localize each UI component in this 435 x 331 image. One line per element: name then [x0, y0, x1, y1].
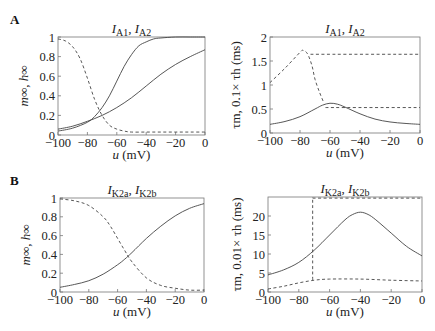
solid-series-line	[268, 212, 422, 275]
chart-title: IA1, IA2	[111, 21, 152, 38]
y-axis-label: m∞, h∞	[18, 225, 33, 266]
x-tick-label: −80	[79, 293, 99, 307]
x-tick-label: −80	[289, 293, 309, 307]
chart-a-right: −100−80−60−40−20000.511.52IA1, IA2u (mV)…	[228, 21, 423, 160]
x-tick-label: −20	[380, 134, 400, 148]
y-axis-label: τm, 0.1× τh (ms)	[228, 41, 243, 128]
dashed-series-line	[268, 279, 422, 289]
y-tick-label: 2	[261, 31, 267, 45]
y-tick-label: 0.2	[39, 109, 55, 123]
x-axis-label: u (mV)	[326, 304, 364, 319]
y-tick-label: 0.4	[41, 248, 57, 262]
dashed-series-line	[60, 199, 204, 290]
x-tick-label: 0	[202, 136, 208, 150]
x-axis-label: u (mV)	[326, 145, 364, 160]
y-tick-label: 0	[261, 127, 267, 141]
y-tick-label: 0.8	[39, 50, 55, 64]
chart-title: IK2a, IK2b	[106, 182, 156, 199]
x-axis-label: u (mV)	[113, 304, 151, 319]
y-tick-label: 0.6	[39, 70, 55, 84]
x-tick-label: 0	[419, 293, 425, 307]
y-axis-label: τm, 0.01× τh (ms)	[229, 198, 244, 292]
y-tick-label: 0	[259, 286, 265, 300]
y-tick-label: 20	[253, 210, 266, 224]
solid-series-line	[60, 204, 204, 288]
plot-frame	[268, 197, 422, 292]
x-tick-label: 0	[201, 293, 207, 307]
solid-series-line	[58, 50, 205, 129]
x-tick-label: −20	[381, 293, 401, 307]
solid-series-line	[58, 37, 205, 131]
y-tick-label: 0.5	[251, 103, 267, 117]
y-tick-label: 5	[259, 267, 265, 281]
y-tick-label: 0.2	[41, 267, 57, 281]
chart-title: IK2a, IK2b	[319, 181, 369, 198]
y-tick-label: 1	[49, 31, 55, 45]
x-tick-label: −20	[166, 136, 186, 150]
dashed-series-line	[58, 39, 205, 132]
chart-title: IA1, IA2	[324, 21, 365, 38]
x-tick-label: −80	[78, 136, 98, 150]
x-tick-label: 0	[417, 134, 423, 148]
plot-frame	[270, 37, 420, 133]
solid-series-line	[270, 103, 420, 124]
chart-b-right: −100−80−60−40−20005101520IK2a, IK2bu (mV…	[229, 181, 425, 319]
x-tick-label: −20	[165, 293, 185, 307]
y-tick-label: 0.6	[41, 229, 57, 243]
chart-b-left: −100−80−60−40−20000.20.40.60.81IK2a, IK2…	[18, 182, 207, 319]
y-tick-label: 1	[261, 79, 267, 93]
y-tick-label: 1.5	[251, 55, 267, 69]
y-tick-label: 0	[51, 286, 57, 300]
dashed-series-line	[270, 50, 324, 103]
plot-frame	[58, 37, 205, 135]
y-tick-label: 0.4	[39, 89, 55, 103]
chart-a-left: −100−80−60−40−20000.20.40.60.81IA1, IA2u…	[16, 21, 208, 162]
x-axis-label: u (mV)	[113, 147, 151, 162]
x-tick-label: −80	[290, 134, 310, 148]
figure-canvas: −100−80−60−40−20000.20.40.60.81IA1, IA2u…	[0, 0, 435, 331]
y-tick-label: 15	[253, 229, 266, 243]
y-tick-label: 0.8	[41, 210, 57, 224]
y-tick-label: 10	[253, 248, 266, 262]
y-tick-label: 0	[49, 129, 55, 143]
y-tick-label: 1	[51, 192, 57, 206]
y-axis-label: m∞, h∞	[16, 66, 31, 107]
